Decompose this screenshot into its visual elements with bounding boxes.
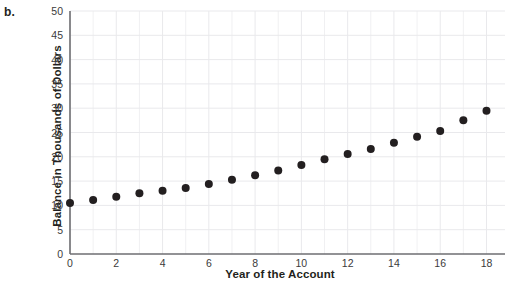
data-point	[344, 150, 352, 158]
data-point	[297, 161, 305, 169]
data-point	[274, 166, 282, 174]
x-tick-label: 18	[471, 258, 501, 269]
data-point	[413, 133, 421, 141]
y-tick-label: 10	[33, 200, 63, 211]
y-tick-label: 5	[33, 225, 63, 236]
x-tick-label: 16	[425, 258, 455, 269]
data-point	[112, 193, 120, 201]
y-tick-label: 35	[33, 79, 63, 90]
y-tick-label: 50	[33, 6, 63, 17]
y-tick-label: 25	[33, 128, 63, 139]
y-tick-label: 20	[33, 152, 63, 163]
data-point	[228, 176, 236, 184]
y-tick-label: 40	[33, 55, 63, 66]
x-tick-label: 2	[101, 258, 131, 269]
data-point	[367, 145, 375, 153]
data-point	[182, 184, 190, 192]
data-point	[390, 139, 398, 147]
y-tick-label: 15	[33, 176, 63, 187]
data-point	[436, 127, 444, 135]
y-tick-label: 45	[33, 30, 63, 41]
x-tick-label: 12	[333, 258, 363, 269]
plot-canvas	[0, 0, 512, 288]
x-tick-label: 10	[286, 258, 316, 269]
data-point	[251, 171, 259, 179]
x-tick-label: 8	[240, 258, 270, 269]
y-tick-label: 30	[33, 103, 63, 114]
data-point	[459, 116, 467, 124]
data-point	[205, 180, 213, 188]
data-point	[135, 189, 143, 197]
data-point	[321, 155, 329, 163]
data-point	[482, 107, 490, 115]
data-point	[89, 196, 97, 204]
x-tick-label: 4	[148, 258, 178, 269]
x-tick-label: 0	[55, 258, 85, 269]
data-point	[66, 199, 74, 207]
x-tick-label: 14	[379, 258, 409, 269]
data-point	[159, 187, 167, 195]
scatter-plot-figure: b. Balance in Thousands of Dollars Year …	[0, 0, 512, 288]
x-tick-label: 6	[194, 258, 224, 269]
